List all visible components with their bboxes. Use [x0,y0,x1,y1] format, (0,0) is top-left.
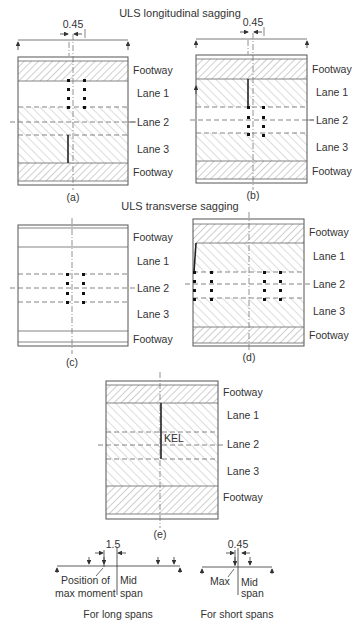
lane-label: Lane 2 [316,114,348,126]
lane-label: Lane 2 [137,282,169,294]
panel-c: Footway Lane 1 Lane 2 Lane 3 Footway (c) [10,218,173,368]
short-spans-diagram: 0.45 Max Mid span For short spans [201,538,274,620]
bridge-loading-diagram: ULS longitudinal sagging ULS transverse … [0,0,359,627]
title-longitudinal: ULS longitudinal sagging [119,7,241,19]
panel-caption: (a) [67,191,80,203]
kel-label: KEL [164,432,184,444]
lane-label: Footway [223,386,263,398]
lane-label: Lane 3 [313,305,345,317]
lane-label: Lane 1 [137,87,169,99]
label-max-moment: max moment [55,587,116,599]
title-transverse: ULS transverse sagging [121,200,238,212]
lane-label: Footway [223,491,263,503]
lane-label: Lane 1 [137,255,169,267]
lane-label: Lane 1 [316,86,348,98]
lane-label: Lane 3 [316,141,348,153]
lane-label: Lane 2 [227,438,259,450]
lane-label: Footway [309,329,349,341]
panel-caption: (d) [243,351,256,363]
label-mid: Mid [120,574,137,586]
lane-label: Footway [133,333,173,345]
panel-b: 0.45 Footway Lane 1 Lane 2 Lane 3 Footwa… [190,16,352,201]
dimension-label: 0.45 [243,16,264,28]
caption-long-spans: For long spans [83,608,152,620]
lane-label: Footway [312,165,352,177]
long-spans-diagram: 1.5 Position of max moment Mid span For … [55,538,180,620]
caption-short-spans: For short spans [201,608,274,620]
panel-caption: (c) [66,356,78,368]
label-position-of: Position of [61,574,110,586]
panel-d: Footway Lane 1 Lane 2 Lane 3 Footway (d) [185,212,349,363]
lane-label: Lane 2 [137,116,169,128]
lane-label: Lane 1 [313,250,345,262]
lane-label: Lane 3 [227,465,259,477]
panel-caption: (e) [154,528,167,540]
label-max: Max [210,575,231,587]
lane-label: Footway [133,64,173,76]
panel-e: KEL Footway Lane 1 Lane 2 Lane 3 Footway… [98,372,263,540]
lane-label: Footway [133,231,173,243]
dimension-label: 0.45 [63,18,84,30]
panel-caption: (b) [247,189,260,201]
lane-label: Lane 1 [227,409,259,421]
lane-label: Footway [133,166,173,178]
label-span: span [120,587,143,599]
lane-label: Footway [312,63,352,75]
lane-label: Footway [309,226,349,238]
label-span: span [241,587,264,599]
lane-label: Lane 3 [137,308,169,320]
lane-label: Lane 3 [137,143,169,155]
panel-a: 0.45 Footway Lane 1 Lane 2 Lane 3 Footwa… [10,18,173,203]
lane-label: Lane 2 [313,278,345,290]
dimension-label: 1.5 [106,538,121,550]
